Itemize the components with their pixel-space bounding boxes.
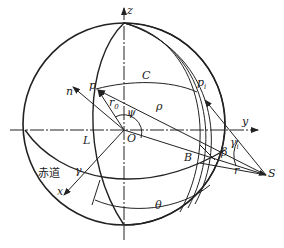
n-vector-label: n bbox=[66, 86, 73, 97]
pi-point-label: pi bbox=[197, 77, 206, 91]
r0-label: r0 bbox=[109, 97, 119, 111]
s-point-label: S bbox=[268, 168, 276, 179]
z-axis-label: z bbox=[127, 5, 133, 16]
beta-label: β bbox=[221, 147, 227, 158]
celestial-sphere-diagram: z y x n p r0 ψ C ρ pi O L γ 赤道 B β γi r … bbox=[0, 0, 284, 248]
c-arc-label: C bbox=[142, 70, 150, 81]
p-point-label: p bbox=[89, 80, 96, 91]
l-label: L bbox=[83, 135, 90, 146]
psi-label: ψ bbox=[127, 107, 136, 118]
r-label: r bbox=[234, 165, 239, 176]
gamma-i-label: γi bbox=[230, 137, 239, 151]
theta-label: θ bbox=[155, 200, 162, 211]
gamma-label: γ bbox=[75, 165, 82, 176]
rho-label: ρ bbox=[156, 101, 162, 112]
equator-label: 赤道 bbox=[38, 168, 60, 179]
origin-label: O bbox=[127, 133, 136, 144]
b-label: B bbox=[184, 152, 192, 163]
y-axis-label: y bbox=[242, 116, 248, 127]
x-axis-label: x bbox=[57, 186, 63, 197]
